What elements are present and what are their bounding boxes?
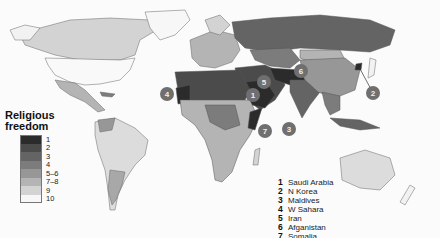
- key-row: 2N Korea: [278, 186, 333, 195]
- legend-swatch: [20, 144, 42, 153]
- legend-swatch: [20, 178, 42, 187]
- mexico-central-america: [55, 80, 105, 112]
- legend-row: 9: [20, 186, 59, 195]
- legend-label: 10: [46, 194, 54, 203]
- legend-swatch: [20, 135, 42, 144]
- legend-row: 4: [20, 161, 59, 170]
- key-country: N Korea: [288, 187, 317, 196]
- greenland: [145, 10, 190, 40]
- north-korea: [355, 63, 362, 70]
- key-country: Iran: [288, 214, 302, 223]
- caribbean: [100, 92, 115, 97]
- legend-row: 2: [20, 144, 59, 153]
- key-row: 1Saudi Arabia: [278, 177, 333, 186]
- legend-swatch: [20, 186, 42, 195]
- south-america: [95, 118, 148, 210]
- key-country: Somalia: [288, 232, 317, 238]
- country-marker-7: 7: [258, 124, 272, 138]
- canada: [20, 18, 160, 60]
- country-marker-5: 5: [257, 75, 271, 89]
- key-country: Afganistan: [288, 223, 326, 232]
- key-country: W Sahara: [288, 205, 324, 214]
- europe: [190, 30, 240, 68]
- legend-row: 1: [20, 135, 59, 144]
- madagascar: [253, 148, 260, 165]
- legend-swatch: [20, 161, 42, 170]
- key-number: 7: [278, 231, 288, 238]
- central-asia: [250, 48, 300, 68]
- key-row: 5Iran: [278, 213, 333, 222]
- country-marker-2: 2: [366, 86, 380, 100]
- southeast-asia: [322, 92, 340, 115]
- legend-swatch: [20, 169, 42, 178]
- world-map: [0, 0, 440, 238]
- new-zealand: [400, 185, 415, 205]
- key-country: Saudi Arabia: [288, 178, 333, 187]
- country-marker-1: 1: [246, 88, 260, 102]
- key-row: 7Somalia: [278, 231, 333, 238]
- legend-title-line2: freedom: [5, 121, 55, 132]
- japan: [368, 58, 376, 78]
- australia: [340, 150, 395, 190]
- country-marker-3: 3: [282, 122, 296, 136]
- legend-swatch: [20, 195, 42, 204]
- legend-swatch: [20, 152, 42, 161]
- key-row: 3Maldives: [278, 195, 333, 204]
- russia: [232, 15, 395, 52]
- key-country: Maldives: [288, 196, 320, 205]
- scandinavia: [205, 15, 230, 35]
- legend-row: 5–6: [20, 169, 59, 178]
- country-marker-4: 4: [160, 87, 174, 101]
- legend-row: 3: [20, 152, 59, 161]
- key-row: 6Afganistan: [278, 222, 333, 231]
- indonesia: [330, 118, 380, 130]
- legend: 1 2 3 4 5–6 7–8 9 10: [20, 135, 59, 203]
- key-row: 4W Sahara: [278, 204, 333, 213]
- legend-title: Religious freedom: [5, 110, 55, 132]
- legend-row: 10: [20, 195, 59, 204]
- country-marker-6: 6: [294, 64, 308, 78]
- country-key: 1Saudi Arabia 2N Korea 3Maldives 4W Saha…: [278, 177, 333, 238]
- legend-row: 7–8: [20, 178, 59, 187]
